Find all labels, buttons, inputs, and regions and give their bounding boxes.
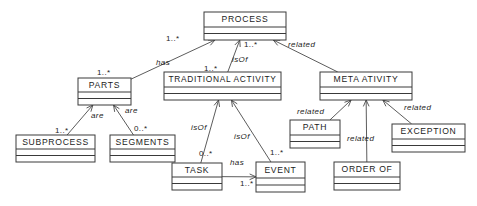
arrowhead [114,105,120,112]
multiplicity-label-m-task-isof: 0..* [199,149,213,158]
class-box-path[interactable]: PATH [290,120,340,148]
role-label-l-has-event: has [230,158,244,167]
multiplicity-label-m-event-isof: 1..* [270,148,284,157]
multiplicity-label-m-task-event: 1..* [240,179,254,188]
role-label-l-related-process: related [288,40,315,49]
class-name-label: EXCEPTION [401,126,457,136]
role-label-l-are-segments: are [125,106,138,115]
class-box-tradact[interactable]: TRADITIONAL ACTIVITY [164,72,281,100]
class-name-label: TRADITIONAL ACTIVITY [169,74,277,84]
role-label-l-related-path: related [297,107,324,116]
role-label-l-related-exception: related [404,103,431,112]
class-name-label: PARTS [89,80,120,90]
role-label-l-related-orderof: related [347,134,374,143]
class-name-label: SEGMENTS [116,137,170,147]
role-label-l-isof-event: isOf [234,132,250,141]
role-label-l-has-process: has [156,58,170,67]
class-name-label: META ATIVITY [334,74,399,84]
class-name-label: PATH [303,122,327,132]
relation-r-metaact-orderof[interactable] [363,100,369,162]
multiplicity-label-m-parts-process: 1..* [166,34,180,43]
relation-line [366,100,367,162]
class-box-metaact[interactable]: META ATIVITY [320,72,412,100]
role-label-l-isof-task: isOf [191,123,207,132]
class-box-segments[interactable]: SEGMENTS [110,135,175,162]
class-box-event[interactable]: EVENT [256,162,305,192]
class-name-label: SUBPROCESS [22,137,89,147]
diagram-canvas: PROCESSPARTSTRADITIONAL ACTIVITYMETA ATI… [0,0,477,206]
class-box-task[interactable]: TASK [172,163,222,190]
multiplicity-label-m-segments: 0..* [134,124,148,133]
role-label-l-are-subprocess: are [91,111,104,120]
relation-r-metaact-path[interactable] [330,100,351,120]
class-name-label: ORDER OF [342,164,393,174]
class-name-label: EVENT [264,165,296,175]
relation-line [67,105,93,135]
class-box-orderof[interactable]: ORDER OF [334,162,400,190]
relation-r-parts-subprocess[interactable] [67,105,93,135]
multiplicity-label-m-tradact-process: 1..* [244,40,258,49]
role-label-l-isof-process: isOf [232,55,248,64]
multiplicity-label-m-tradact-up: 1..* [204,64,218,73]
class-name-label: PROCESS [222,14,269,24]
arrowhead [231,100,237,107]
class-box-parts[interactable]: PARTS [78,78,131,105]
relation-line [231,100,271,162]
uml-class-diagram: PROCESSPARTSTRADITIONAL ACTIVITYMETA ATI… [0,0,477,206]
multiplicity-label-m-subprocess: 1..* [55,126,69,135]
class-box-exception[interactable]: EXCEPTION [392,124,465,152]
class-box-process[interactable]: PROCESS [204,12,286,40]
class-box-subprocess[interactable]: SUBPROCESS [16,135,95,162]
class-name-label: TASK [185,165,210,175]
relation-r-tradact-event[interactable] [231,100,271,162]
relation-line [330,100,351,120]
multiplicity-label-m-parts-up: 1..* [97,68,111,77]
